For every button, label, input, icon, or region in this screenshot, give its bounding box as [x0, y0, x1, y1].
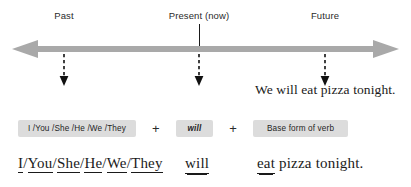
parsed-verb-word: eat — [257, 155, 275, 174]
parsed-verb-slot: eat pizza tonight. — [257, 155, 364, 174]
formula-plus-2: + — [213, 120, 253, 137]
formula-plus-1: + — [136, 120, 176, 137]
parsed-subject-separator: / — [102, 155, 106, 171]
parsed-subject-word: You — [28, 155, 53, 173]
formula-subject-chip: I /You /She /He /We /They — [18, 120, 136, 137]
parsed-subject-group: I/You/She/He/We/They — [18, 155, 163, 172]
parsed-subject-word: They — [131, 155, 163, 173]
example-sentence: We will eat pizza tonight. — [255, 82, 396, 98]
parsed-subject-word: She — [57, 155, 80, 173]
formula-verb-chip: Base form of verb — [253, 120, 348, 137]
parsed-subject-word: We — [107, 155, 127, 173]
parsed-subject-separator: / — [23, 155, 27, 171]
dashed-arrow-past-icon — [57, 54, 71, 88]
parsed-auxiliary-word: will — [185, 155, 209, 174]
future-tense-timeline-diagram: Past Present (now) Future We will eat pi… — [0, 0, 411, 187]
formula-row: I /You /She /He /We /They + will + Base … — [18, 120, 348, 137]
timeline-label-past: Past — [54, 10, 73, 21]
parsed-auxiliary-slot: will — [185, 155, 209, 174]
timeline-label-future: Future — [311, 10, 339, 21]
formula-auxiliary-chip: will — [176, 120, 214, 137]
dashed-arrow-present-icon — [192, 54, 206, 88]
parsed-subject-list: I/You/She/He/We/They — [18, 155, 163, 172]
parsed-complement: pizza tonight. — [275, 155, 363, 171]
parsed-subject-word: He — [84, 155, 102, 173]
timeline-label-present: Present (now) — [169, 10, 229, 21]
